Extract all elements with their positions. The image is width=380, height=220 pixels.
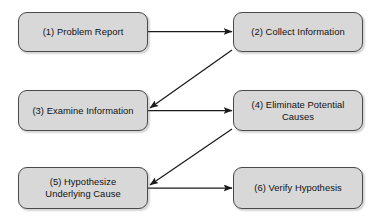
node-3-examine-information[interactable]: (3) Examine Information — [18, 90, 148, 131]
node-5-hypothesize-underlying-cause[interactable]: (5) Hypothesize Underlying Cause — [18, 167, 148, 209]
node-4-label: (4) Eliminate Potential Causes — [248, 99, 349, 122]
node-5-label: (5) Hypothesize Underlying Cause — [41, 176, 124, 199]
node-1-label: (1) Problem Report — [39, 26, 128, 38]
node-2-label: (2) Collect Information — [247, 26, 348, 38]
node-6-verify-hypothesis[interactable]: (6) Verify Hypothesis — [233, 167, 363, 209]
node-1-problem-report[interactable]: (1) Problem Report — [18, 12, 148, 52]
edge-4-to-5 — [150, 129, 232, 185]
node-6-label: (6) Verify Hypothesis — [250, 182, 346, 194]
flowchart-diagram: (1) Problem Report (2) Collect Informati… — [0, 0, 380, 220]
node-3-label: (3) Examine Information — [28, 105, 137, 117]
node-2-collect-information[interactable]: (2) Collect Information — [233, 12, 363, 52]
edge-2-to-3 — [150, 50, 232, 108]
node-4-eliminate-potential-causes[interactable]: (4) Eliminate Potential Causes — [233, 90, 363, 131]
